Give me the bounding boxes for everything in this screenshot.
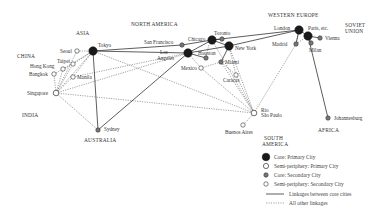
world-city-hierarchy-diagram: ASIA CHINA INDIA AUSTRALIA NORTH AMERICA…	[0, 0, 382, 221]
label-manila: Manila	[77, 74, 92, 80]
label-tokyo: Tokyo	[98, 42, 112, 48]
node-singapore	[53, 90, 59, 96]
label-mexico: Mexico	[181, 65, 197, 71]
legend-core-primary-icon	[262, 153, 270, 161]
legend-semi-primary-icon	[263, 163, 268, 168]
node-tokyo	[89, 47, 97, 55]
legend-semi-secondary-label: Semi-periphery: Secondary City	[274, 181, 344, 187]
node-vienna	[318, 36, 322, 40]
legend-core-secondary-label: Core: Secondary City	[274, 172, 321, 178]
label-miami: Miami	[225, 59, 239, 65]
label-milan: Milan	[309, 47, 322, 53]
label-london: London	[274, 25, 291, 31]
label-hong-kong: Hong Kong	[30, 63, 55, 69]
node-houston	[204, 56, 208, 60]
node-manila	[71, 75, 75, 79]
label-seoul: Seoul	[60, 48, 72, 54]
label-bangkok: Bangkok	[29, 71, 48, 77]
label-houston: Houston	[198, 50, 216, 56]
region-north-america: NORTH AMERICA	[131, 21, 178, 27]
node-hong-kong	[61, 67, 65, 71]
label-los-angeles-line2: Angeles	[157, 55, 174, 61]
node-madrid	[294, 42, 298, 46]
node-johannesburg	[326, 116, 330, 120]
node-bangkok	[52, 72, 56, 76]
label-vienna: Vienna	[325, 35, 340, 41]
legend-semi-primary-label: Semi-periphery: Primary City	[274, 163, 339, 169]
region-western-europe: WESTERN EUROPE	[268, 12, 319, 18]
region-south-america-line2: AMERICA	[262, 141, 288, 147]
legend-semi-secondary-icon	[264, 182, 268, 186]
node-rio-sao-paulo	[251, 110, 257, 116]
label-san-francisco: San Francisco	[144, 39, 174, 45]
label-caracas: Caracas	[223, 77, 239, 83]
label-buenos-aires: Buenos Aires	[225, 129, 253, 135]
label-singapore: Singapore	[27, 90, 49, 96]
region-australia: AUSTRALIA	[84, 137, 116, 143]
legend-core-primary-label: Core: Primary City	[274, 154, 316, 160]
node-sydney	[96, 128, 100, 132]
node-seoul	[75, 49, 79, 53]
legend-core-links-label: Linkages between core cities	[289, 191, 351, 197]
node-milan	[309, 41, 313, 45]
node-paris	[304, 32, 312, 40]
legend-core-secondary-icon	[264, 173, 268, 177]
node-chicago	[208, 36, 216, 44]
node-los-angeles	[184, 49, 192, 57]
region-labels: ASIA CHINA INDIA AUSTRALIA NORTH AMERICA…	[17, 12, 366, 147]
node-miami	[219, 60, 223, 64]
region-india: INDIA	[22, 112, 38, 118]
node-toronto	[220, 37, 224, 41]
label-johannesburg: Johannesburg	[334, 115, 363, 121]
core-linkages	[93, 30, 328, 130]
node-london	[295, 26, 303, 34]
label-rio-line2: São Paulo	[261, 112, 282, 118]
legend: Core: Primary City Semi-periphery: Prima…	[262, 153, 351, 206]
region-soviet-union-line2: UNION	[345, 28, 363, 34]
node-buenos-aires	[241, 123, 245, 127]
label-new-york: New York	[235, 45, 256, 51]
region-china: CHINA	[17, 53, 35, 59]
label-toronto: Toronto	[214, 30, 231, 36]
label-chicago: Chicago	[188, 36, 206, 42]
label-taipei: Taipei	[57, 58, 70, 64]
node-mexico	[199, 66, 203, 70]
region-africa: AFRICA	[318, 127, 339, 133]
region-asia: ASIA	[76, 30, 89, 36]
label-sydney: Sydney	[104, 126, 120, 132]
legend-other-links-label: All other linkages	[289, 200, 328, 206]
node-taipei	[71, 62, 75, 66]
node-san-francisco	[180, 43, 184, 47]
label-madrid: Madrid	[272, 41, 288, 47]
node-new-york	[225, 42, 233, 50]
label-paris: Paris, etc.	[308, 25, 328, 31]
